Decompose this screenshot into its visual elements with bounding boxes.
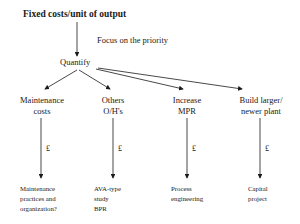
branch-maintenance-costs: Maintenance costs — [12, 95, 72, 116]
diagram-title: Fixed costs/unit of output — [23, 10, 126, 20]
branch-label-line2: costs — [12, 106, 72, 117]
pound-label: £ — [192, 145, 196, 153]
branch-label-line2: MPR — [162, 106, 212, 117]
outcome-line: organization? — [20, 204, 57, 214]
outcome-maintenance-practices: Maintenance practices and organization? — [20, 184, 57, 214]
pound-label: £ — [118, 145, 122, 153]
outcome-line: engineering — [171, 194, 203, 204]
outcome-line: study — [94, 194, 121, 204]
outcome-line: AVA-type — [94, 184, 121, 194]
branch-build-plant: Build larger/ newer plant — [230, 95, 292, 116]
branch-increase-mpr: Increase MPR — [162, 95, 212, 116]
pound-label: £ — [46, 145, 50, 153]
branch-other-overheads: Others O/H's — [93, 95, 133, 116]
outcome-ava-study: AVA-type study BPR — [94, 184, 121, 214]
branch-label-line1: Others — [93, 95, 133, 106]
branch-label-line2: newer plant — [230, 106, 292, 117]
outcome-line: practices and — [20, 194, 57, 204]
priority-annotation: Focus on the priority — [97, 36, 168, 45]
pound-label: £ — [265, 145, 269, 153]
branch-label-line2: O/H's — [93, 106, 133, 117]
outcome-line: Capital — [248, 184, 268, 194]
outcome-line: BPR — [94, 204, 121, 214]
outcome-line: Maintenance — [20, 184, 57, 194]
outcome-process-engineering: Process engineering — [171, 184, 203, 204]
branch-label-line1: Maintenance — [12, 95, 72, 106]
branch-label-line1: Build larger/ — [230, 95, 292, 106]
outcome-capital-project: Capital project — [248, 184, 268, 204]
quantify-node: Quantify — [60, 58, 90, 67]
outcome-line: project — [248, 194, 268, 204]
branch-label-line1: Increase — [162, 95, 212, 106]
outcome-line: Process — [171, 184, 203, 194]
